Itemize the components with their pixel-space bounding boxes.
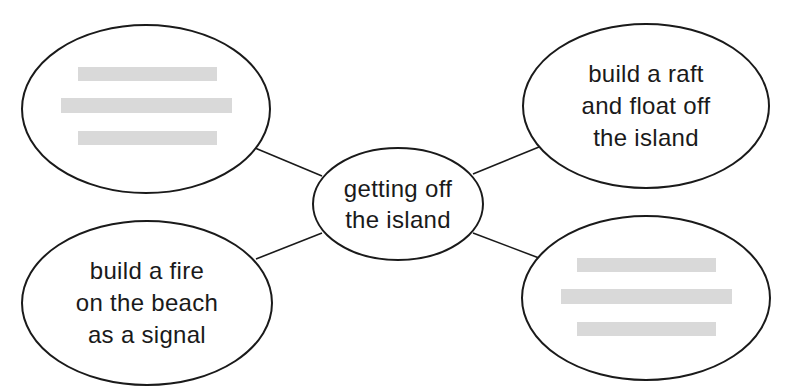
redacted-text-bar — [78, 131, 217, 145]
center-text-line: the island — [345, 204, 451, 235]
redacted-text-bar — [78, 67, 217, 81]
connector-top-left — [255, 148, 322, 176]
node-text-line: as a signal — [88, 319, 206, 351]
node-text-line: build a raft — [588, 58, 704, 90]
node-text-line: on the beach — [76, 287, 218, 319]
node-text-line: the island — [593, 122, 699, 154]
redacted-text-bar — [61, 98, 232, 113]
connector-bottom-left — [256, 233, 322, 259]
concept-map-diagram: build a raft and float off the island ge… — [0, 0, 793, 392]
node-top-right: build a raft and float off the island — [536, 56, 756, 156]
center-text-line: getting off — [344, 173, 452, 204]
redacted-text-bar — [561, 289, 732, 304]
connector-bottom-right — [473, 233, 539, 258]
node-bottom-left: build a fire on the beach as a signal — [37, 253, 257, 353]
redacted-text-bar — [577, 258, 716, 272]
redacted-text-bar — [577, 322, 716, 336]
center-node: getting off the island — [318, 172, 478, 236]
connector-top-right — [473, 147, 539, 174]
node-text-line: build a fire — [90, 255, 204, 287]
node-text-line: and float off — [582, 90, 711, 122]
